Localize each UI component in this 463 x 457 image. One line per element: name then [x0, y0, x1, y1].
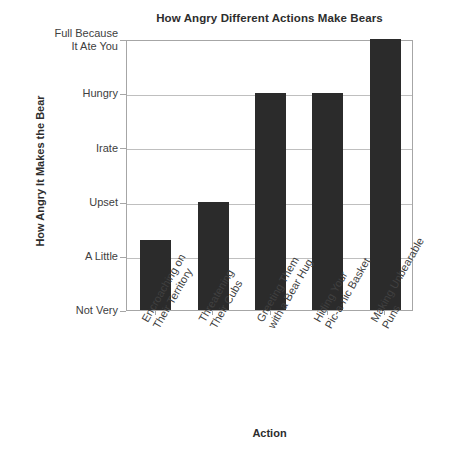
- x-axis-tick-labels: Encroaching on Their TerritoryThreatenin…: [0, 0, 463, 457]
- bar-chart: How Angry Different Actions Make Bears H…: [0, 0, 463, 457]
